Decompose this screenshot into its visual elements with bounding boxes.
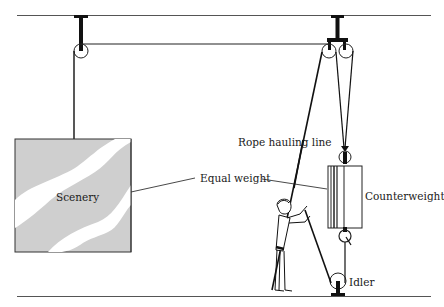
equal-weight-leader-left (131, 178, 195, 192)
operator-figure (275, 199, 310, 291)
idler-pulley (330, 273, 346, 296)
purchase-line-back (336, 52, 344, 148)
rope-hauling-line-label: Rope hauling line (238, 136, 332, 148)
arbor-line (345, 51, 353, 148)
loft-block (74, 15, 88, 58)
counterweight-label: Counterweight (365, 190, 444, 202)
counterweight-arbor (328, 166, 362, 228)
head-block (322, 15, 353, 58)
hauling-line-lower (305, 210, 331, 283)
scenery-label: Scenery (56, 191, 99, 203)
equal-weight-label: Equal weight (200, 172, 271, 184)
idler-label: Idler (349, 276, 375, 288)
rigging-diagram: Scenery Equal weight Rope hauling line C… (0, 0, 444, 307)
